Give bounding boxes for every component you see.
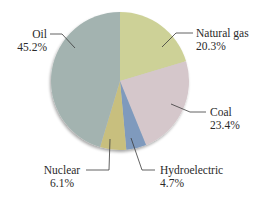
- label-coal-name: Coal: [210, 106, 240, 119]
- label-natural-gas: Natural gas 20.3%: [196, 27, 249, 53]
- label-hydroelectric: Hydroelectric 4.7%: [160, 164, 223, 190]
- pie-slices: [51, 12, 189, 150]
- label-nuclear: Nuclear 6.1%: [40, 164, 84, 190]
- label-coal: Coal 23.4%: [210, 106, 240, 132]
- label-natural-gas-pct: 20.3%: [196, 40, 249, 53]
- label-oil: Oil 45.2%: [10, 28, 47, 54]
- label-natural-gas-name: Natural gas: [196, 27, 249, 40]
- label-oil-name: Oil: [10, 28, 47, 41]
- label-nuclear-name: Nuclear: [40, 164, 84, 177]
- label-coal-pct: 23.4%: [210, 119, 240, 132]
- label-hydroelectric-pct: 4.7%: [160, 177, 223, 190]
- label-oil-pct: 45.2%: [10, 41, 47, 54]
- label-nuclear-pct: 6.1%: [40, 177, 84, 190]
- label-hydroelectric-name: Hydroelectric: [160, 164, 223, 177]
